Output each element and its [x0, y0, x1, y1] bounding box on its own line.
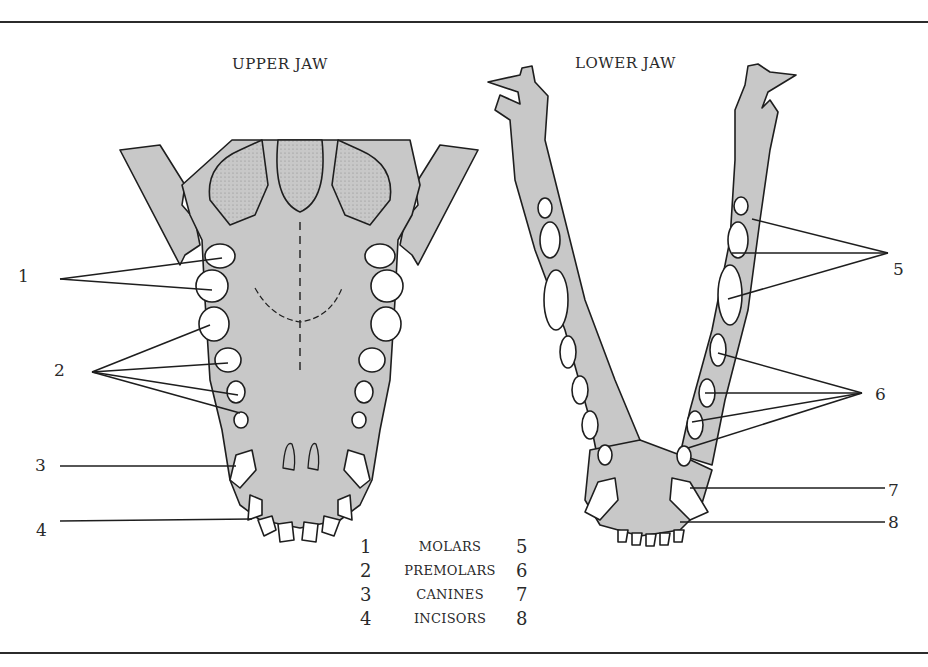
legend-label: MOLARS [384, 539, 516, 554]
legend-lower-number: 5 [516, 536, 540, 557]
legend-row-molars: 1 MOLARS 5 [360, 534, 570, 558]
callout-label-1: 1 [18, 266, 29, 286]
callout-label-2: 2 [54, 360, 65, 380]
callout-label-7: 7 [888, 480, 899, 500]
lower-jaw-title: LOWER JAW [575, 54, 676, 72]
legend-upper-number: 2 [360, 560, 384, 581]
legend-upper-number: 3 [360, 584, 384, 605]
tooth-legend: 1 MOLARS 5 2 PREMOLARS 6 3 CANINES 7 4 I… [360, 534, 570, 630]
legend-lower-number: 6 [516, 560, 540, 581]
callout-label-4: 4 [36, 520, 47, 540]
legend-row-premolars: 2 PREMOLARS 6 [360, 558, 570, 582]
legend-lower-number: 8 [516, 608, 540, 629]
legend-label: INCISORS [384, 611, 516, 626]
legend-upper-number: 1 [360, 536, 384, 557]
callout-label-6: 6 [875, 384, 886, 404]
legend-label: PREMOLARS [384, 563, 516, 578]
callout-label-3: 3 [35, 455, 46, 475]
lower-jaw-drawing [488, 64, 888, 546]
upper-jaw-title: UPPER JAW [232, 55, 328, 73]
legend-label: CANINES [384, 587, 516, 602]
legend-upper-number: 4 [360, 608, 384, 629]
callout-label-5: 5 [893, 259, 904, 279]
legend-row-incisors: 4 INCISORS 8 [360, 606, 570, 630]
upper-jaw-drawing [60, 140, 478, 542]
legend-row-canines: 3 CANINES 7 [360, 582, 570, 606]
legend-lower-number: 7 [516, 584, 540, 605]
callout-label-8: 8 [888, 512, 899, 532]
